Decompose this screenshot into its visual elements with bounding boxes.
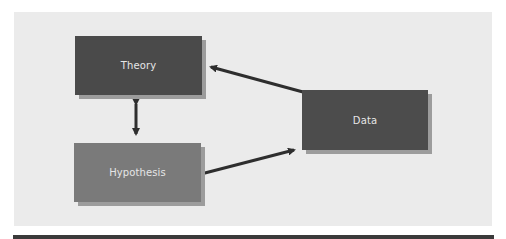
theory-node: Theory xyxy=(75,36,202,95)
bottom-divider xyxy=(13,235,494,239)
data-node: Data xyxy=(302,90,428,150)
hypothesis-node: Hypothesis xyxy=(74,143,201,202)
data-label: Data xyxy=(353,115,377,126)
hypothesis-label: Hypothesis xyxy=(109,167,166,178)
theory-label: Theory xyxy=(121,60,156,71)
